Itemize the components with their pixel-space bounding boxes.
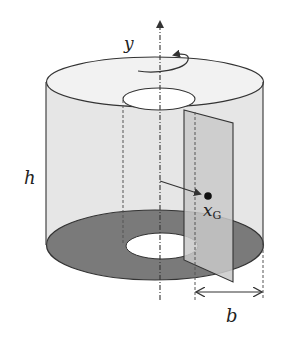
height-label-h: h bbox=[24, 167, 36, 188]
axis-label-y: y bbox=[123, 33, 134, 53]
hollow-cylinder-diagram: y h xG b bbox=[0, 0, 285, 341]
width-label-b: b bbox=[226, 305, 238, 326]
centroid-point bbox=[204, 192, 212, 200]
inner-hole-top bbox=[123, 88, 195, 110]
